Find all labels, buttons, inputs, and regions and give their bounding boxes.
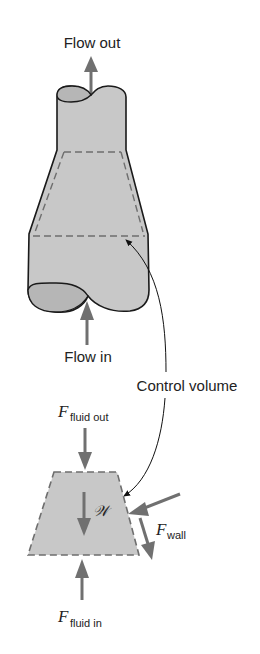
f-fluid-in-label: F fluid in — [57, 607, 102, 629]
control-volume-diagram: Flow out Flow in Control volume F fluid … — [0, 0, 260, 654]
flow-in-label: Flow in — [64, 348, 112, 365]
f-wall-subscript: wall — [166, 529, 186, 541]
f-wall-symbol: F — [155, 520, 167, 539]
flow-in-arrow — [80, 301, 94, 345]
f-fluid-out-arrow — [78, 428, 92, 470]
control-volume-pointer-bottom — [124, 398, 165, 496]
f-fluid-in-arrow — [75, 559, 89, 600]
f-fluid-out-subscript: fluid out — [70, 411, 109, 423]
flow-out-arrow — [84, 56, 98, 94]
f-wall-label: F wall — [155, 520, 186, 541]
flow-out-label: Flow out — [64, 34, 122, 51]
f-fluid-out-symbol: F — [57, 402, 69, 421]
f-fluid-in-subscript: fluid in — [70, 617, 102, 629]
control-volume-label: Control volume — [137, 377, 238, 394]
f-fluid-out-label: F fluid out — [57, 402, 109, 423]
f-fluid-in-symbol: F — [57, 607, 69, 626]
pipe — [28, 86, 149, 312]
